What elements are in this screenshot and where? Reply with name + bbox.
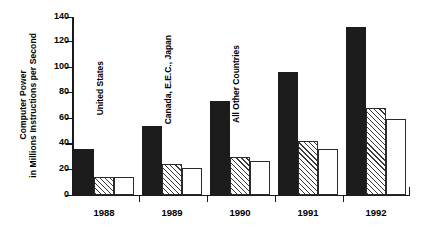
y-axis-title-line-2: in Millions Instructions per Second [29,33,38,178]
x-tick-1989 [207,195,208,202]
y-axis-title: Computer Power in Millions Instructions … [0,0,56,210]
series-label-all-other-countries: All Other Countries [232,45,241,123]
bar-1990-canada-eec-japan [230,157,250,194]
bar-1992-all-other-countries [386,119,406,194]
y-tick-label: 140 [54,11,69,22]
x-tick-label-1989: 1989 [161,207,182,218]
x-tick-1988 [139,195,140,202]
x-axis-line [72,195,410,197]
x-tick-label-1988: 1988 [93,207,114,218]
x-tick-label-1991: 1991 [297,207,318,218]
x-axis-end-cap [409,187,411,196]
y-tick-label: 40 [59,137,69,148]
x-tick-1990 [275,195,276,202]
y-tick-label: 100 [54,61,69,72]
x-tick-label-1990: 1990 [229,207,250,218]
bar-1988-canada-eec-japan [94,177,114,195]
bar-1990-all-other-countries [250,161,270,194]
x-tick-1991 [343,195,344,202]
series-label-united-states: United States [96,61,105,115]
x-tick-label-1992: 1992 [365,207,386,218]
series-label-canada-eec-japan: Canada, E.E.C., Japan [164,35,173,124]
bar-1988-united-states [74,149,94,195]
y-tick-label: 20 [59,163,69,174]
bar-1990-united-states [210,101,230,194]
y-tick-label: 120 [54,35,69,46]
y-axis-title-line-1: Computer Power [19,70,28,139]
bar-1989-united-states [142,126,162,195]
bar-1989-canada-eec-japan [162,164,182,195]
bar-chart: Computer Power in Millions Instructions … [0,0,424,249]
bar-1991-united-states [278,72,298,195]
bar-1992-canada-eec-japan [366,108,386,195]
bar-1991-canada-eec-japan [298,141,318,195]
bar-1989-all-other-countries [182,168,202,195]
y-tick-label: 80 [59,86,69,97]
bar-1992-united-states [346,27,366,194]
bar-1991-all-other-countries [318,149,338,195]
y-tick-label: 60 [59,112,69,123]
bar-1988-all-other-countries [114,177,134,195]
y-tick-label: 0 [64,189,69,200]
plot-area: 0 20 40 60 80 100 120 140 [72,17,410,196]
